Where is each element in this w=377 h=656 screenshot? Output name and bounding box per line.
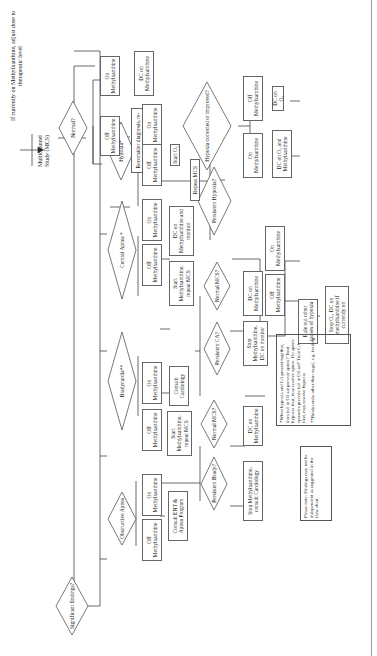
box-hypoxia-off: Off Methylxanthine (142, 144, 162, 186)
decision-significant: Significant findings? (55, 576, 89, 636)
box-ob-off: Off Methylxanthine (142, 519, 162, 561)
box-ca-on: On Methylxanthine (142, 199, 162, 241)
box-ob-on: On Methylxanthine (142, 474, 162, 516)
decision-obstructive-apnea: Obstructive Apnea (107, 491, 137, 546)
decision-normal: Normal? (58, 100, 88, 156)
decision-persistent-brady: Persistent Brady? (200, 456, 228, 511)
box-ca-off: Off Methylxanthine (142, 244, 162, 286)
box-repeat-mcs: Repeat MCS (190, 159, 200, 201)
decision-persistent-ca: Persistent CA? (203, 321, 231, 376)
decision-hypoxia-corrected: Hypoxia corrected or improved? (182, 81, 232, 171)
box-ca-off-action: Start Methylxanthine, repeat MCS (169, 261, 194, 306)
flowchart-canvas: If currently on Methylxanthine, adjust d… (0, 0, 377, 656)
box-hc-on-action: DC on O₂ and Methylxanthine (272, 130, 292, 178)
box-br-off: Off Methylxanthine (142, 409, 162, 451)
please-note-box: Please note: Findings may not be indepen… (300, 446, 332, 521)
decision-normal-mcs-1: Normal MCS? (203, 261, 231, 311)
box-dc-on-methylxanthine-1: DC on Methylxanthine (243, 271, 263, 316)
decision-persistent-hypoxia: Persistent Hypoxia? (197, 166, 232, 236)
start-label: Multichannel Study (MCS) (37, 131, 51, 171)
box-hc-off: Off Methylxanthine (243, 76, 263, 121)
decision-central-apnea: Central Apnea * (107, 200, 137, 300)
footnote-box: *When hypoxia and CA present together, d… (276, 334, 351, 426)
box-hypoxia-on: On Methylxanthine (142, 104, 162, 146)
box-hc-off-action: DC on O₂ (272, 86, 284, 111)
box-ph-off: Off Methylxanthine (265, 274, 285, 316)
box-hc-on: On Methylxanthine (243, 133, 263, 178)
document-page: If currently on Methylxanthine, adjust d… (0, 0, 377, 656)
decision-normal-mcs-2: Normal MCS? (200, 399, 228, 449)
box-ph-on: On Methylxanthine (265, 226, 285, 271)
box-br-on: On Methylxanthine (142, 362, 162, 404)
decision-bradycardia: Bradycardia** (107, 331, 137, 431)
box-normal-on-action: DC on Methylxanthine (134, 51, 154, 96)
box-stop-meth-monitor: Stop Methylxanthine, DC on monitor (243, 321, 268, 366)
box-ca-on-action: DC on Methylxanthine and monitor (169, 206, 194, 256)
instruction-text: If currently on Methylxanthine, adjust d… (10, 6, 24, 126)
footnote-bradycardia: **Bradycardia other than vagal, e.g. fee… (310, 337, 316, 423)
box-consult-ent: Consult ENT & Apnea Program (168, 491, 188, 541)
box-start-o2: Start O₂ (170, 144, 180, 166)
box-stop-meth-cardiology: Stop Methylxanthine, consult Cardiology (243, 461, 263, 521)
box-dc-on-methylxanthine-2: DC on Methylxanthine (243, 406, 263, 446)
box-br-off-action: Start Methylxanthine, repeat MCS (167, 411, 192, 456)
box-normal-on: On Methylxanthine (100, 56, 120, 96)
footnote-hypoxia-ca: *When hypoxia and CA present together, d… (279, 337, 307, 423)
box-consult-cardiology: Consult Cardiology (169, 366, 189, 406)
